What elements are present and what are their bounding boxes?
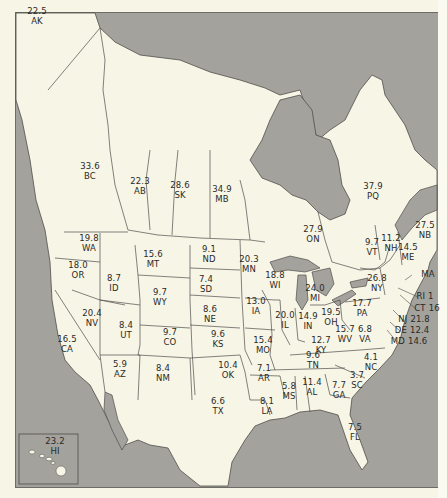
region-code: IN (298, 321, 317, 331)
callout-label-ct: CT16 (414, 304, 439, 314)
region-label-ms: 5.8MS (282, 382, 296, 401)
region-label-ks: 9.6KS (211, 330, 225, 349)
region-code: LA (260, 406, 274, 416)
region-code: NY (367, 283, 386, 293)
region-code: TN (306, 360, 320, 370)
region-code: MN (239, 264, 258, 274)
region-code: WY (153, 297, 167, 307)
region-code: NV (82, 318, 101, 328)
region-code: ID (107, 283, 121, 293)
region-code: AZ (113, 369, 127, 379)
region-label-az: 5.9AZ (113, 360, 127, 379)
region-label-nv: 20.4NV (82, 309, 101, 328)
region-label-al: 11.4AL (302, 378, 321, 397)
region-label-nb: 27.5NB (415, 221, 434, 240)
region-label-wi: 18.8WI (265, 271, 284, 290)
region-label-ma: MA (421, 270, 434, 280)
region-code: MT (143, 259, 162, 269)
region-label-pa: 17.7PA (352, 299, 371, 318)
region-value: 12.4 (410, 325, 429, 335)
region-code: HI (45, 446, 64, 456)
region-label-on: 27.9ON (303, 225, 322, 244)
region-label-mt: 15.6MT (143, 250, 162, 269)
region-label-wy: 9.7WY (153, 288, 167, 307)
region-code: WI (265, 280, 284, 290)
callout-label-ri: RI1 (416, 292, 433, 302)
region-code: CT (414, 303, 425, 313)
callout-label-nj: NJ21.8 (398, 315, 429, 325)
region-label-tx: 6.6TX (211, 397, 225, 416)
callout-label-de: DE12.4 (395, 326, 429, 336)
region-code: WA (79, 243, 98, 253)
region-code: AK (27, 16, 46, 26)
region-label-sc: 3.7SC (350, 371, 364, 390)
region-label-id: 8.7ID (107, 274, 121, 293)
region-code: OK (218, 370, 237, 380)
region-code: IA (246, 306, 265, 316)
region-label-sk: 28.6SK (170, 181, 189, 200)
region-code: MI (305, 293, 324, 303)
region-code: VT (365, 247, 379, 257)
region-code: PQ (363, 191, 382, 201)
north-america-map (0, 0, 447, 498)
region-label-ak: 22.5AK (27, 7, 46, 26)
region-code: AB (130, 186, 149, 196)
region-label-nd: 9.1ND (202, 245, 216, 264)
region-code: KS (211, 339, 225, 349)
region-label-ut: 8.4UT (119, 321, 133, 340)
region-label-wa: 19.8WA (79, 234, 98, 253)
region-code: DE (395, 325, 407, 335)
region-code: MS (282, 391, 296, 401)
region-label-mi: 24.0MI (305, 284, 324, 303)
region-label-pq: 37.9PQ (363, 182, 382, 201)
region-value: 21.8 (410, 314, 429, 324)
region-label-la: 8.1LA (260, 397, 274, 416)
region-label-mb: 34.9MB (212, 185, 231, 204)
region-label-ny: 26.8NY (367, 274, 386, 293)
region-label-ca: 16.5CA (57, 335, 76, 354)
region-code: WV (335, 334, 354, 344)
region-code: BC (80, 171, 99, 181)
region-code: FL (348, 432, 362, 442)
region-code: RI (416, 291, 425, 301)
region-code: AL (302, 387, 321, 397)
page-edge (438, 0, 447, 498)
region-label-in: 14.9IN (298, 312, 317, 331)
region-label-nm: 8.4NM (156, 364, 170, 383)
region-label-ia: 13.0IA (246, 297, 265, 316)
region-code: NM (156, 373, 170, 383)
region-code: MA (421, 270, 434, 280)
region-code: NB (415, 230, 434, 240)
region-label-sd: 7.4SD (199, 275, 213, 294)
region-code: TX (211, 406, 225, 416)
region-code: MO (253, 345, 272, 355)
region-code: ON (303, 234, 322, 244)
region-code: NC (364, 362, 378, 372)
region-code: IL (275, 320, 294, 330)
region-label-or: 18.0OR (68, 261, 87, 280)
region-value: 16 (429, 303, 440, 313)
region-code: AR (257, 373, 271, 383)
region-code: CA (57, 344, 76, 354)
region-code: MD (391, 336, 405, 346)
region-label-tn: 9.6TN (306, 351, 320, 370)
region-code: NE (203, 314, 217, 324)
region-label-va: 6.8VA (358, 325, 372, 344)
region-code: OR (68, 270, 87, 280)
region-label-me: 14.5ME (398, 243, 417, 262)
callout-label-md: MD14.6 (391, 337, 427, 347)
region-label-ne: 8.6NE (203, 305, 217, 324)
region-code: GA (332, 390, 346, 400)
region-code: NJ (398, 314, 407, 324)
region-label-ok: 10.4OK (218, 361, 237, 380)
region-label-ga: 7.7GA (332, 381, 346, 400)
region-label-bc: 33.6BC (80, 162, 99, 181)
region-label-mn: 20.3MN (239, 255, 258, 274)
region-value: 14.6 (408, 336, 427, 346)
region-label-fl: 7.5FL (348, 423, 362, 442)
region-label-ar: 7.1AR (257, 364, 271, 383)
region-label-vt: 9.7VT (365, 238, 379, 257)
region-label-co: 9.7CO (163, 328, 177, 347)
region-code: SC (350, 380, 364, 390)
region-value: 1 (428, 291, 434, 301)
